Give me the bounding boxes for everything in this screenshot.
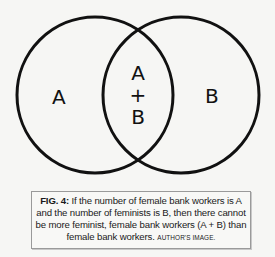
figure-number: FIG. 4:	[40, 195, 69, 206]
label-b: B	[205, 86, 219, 106]
image-credit: Author's image.	[157, 234, 215, 241]
label-intersection-a: A	[126, 62, 150, 84]
label-intersection: A + B	[126, 62, 150, 128]
label-intersection-plus: +	[126, 84, 150, 106]
figure-caption: FIG. 4: If the number of female bank wor…	[31, 191, 251, 249]
label-a: A	[52, 87, 66, 107]
label-intersection-b: B	[126, 106, 150, 128]
